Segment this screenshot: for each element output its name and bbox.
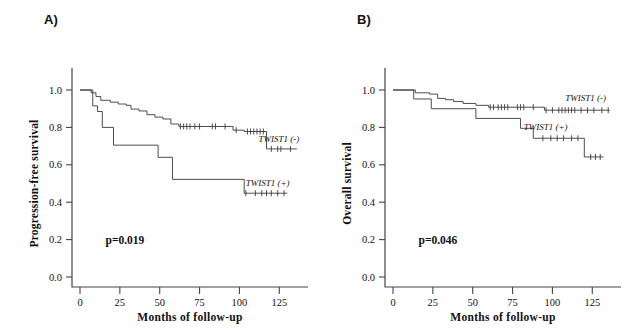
x-tick-label: 75 bbox=[194, 297, 205, 308]
x-axis-title: Months of follow-up bbox=[450, 311, 555, 324]
y-tick-label: 0.0 bbox=[362, 272, 375, 283]
panel-b: B) 0.00.20.40.60.81.00255075100125Months… bbox=[313, 0, 626, 333]
x-tick-label: 50 bbox=[467, 297, 478, 308]
y-tick-label: 1.0 bbox=[49, 85, 62, 96]
y-tick-label: 0.2 bbox=[49, 234, 62, 245]
x-axis-title: Months of follow-up bbox=[137, 311, 242, 324]
x-tick-label: 0 bbox=[390, 297, 395, 308]
y-tick-label: 0.4 bbox=[362, 197, 376, 208]
curve-label-positive: TWIST1 (+) bbox=[524, 122, 568, 132]
p-value-annotation: p=0.046 bbox=[419, 234, 458, 247]
panel-b-plot: 0.00.20.40.60.81.00255075100125Months of… bbox=[313, 0, 626, 333]
curve-label-negative: TWIST1 (-) bbox=[259, 134, 300, 144]
panel-a: A) 0.00.20.40.60.81.00255075100125Months… bbox=[0, 0, 313, 333]
y-tick-label: 1.0 bbox=[362, 85, 375, 96]
x-tick-label: 25 bbox=[115, 297, 126, 308]
y-axis-title: Overall survival bbox=[341, 142, 353, 225]
y-tick-label: 0.6 bbox=[49, 159, 62, 170]
y-tick-label: 0.2 bbox=[362, 234, 375, 245]
panel-a-plot: 0.00.20.40.60.81.00255075100125Months of… bbox=[0, 0, 313, 333]
curve-label-positive: TWIST1 (+) bbox=[246, 178, 290, 188]
y-tick-label: 0.6 bbox=[362, 159, 375, 170]
x-tick-label: 25 bbox=[428, 297, 439, 308]
p-value-annotation: p=0.019 bbox=[106, 234, 145, 247]
x-tick-label: 125 bbox=[271, 297, 287, 308]
curve-label-negative: TWIST1 (-) bbox=[565, 93, 606, 103]
x-tick-label: 0 bbox=[77, 297, 82, 308]
x-tick-label: 75 bbox=[507, 297, 517, 308]
y-tick-label: 0.8 bbox=[49, 122, 62, 133]
y-tick-label: 0.0 bbox=[49, 272, 62, 283]
x-tick-label: 125 bbox=[584, 297, 600, 308]
y-axis-title: Progression-free survival bbox=[28, 120, 41, 248]
kaplan-meier-figure: A) 0.00.20.40.60.81.00255075100125Months… bbox=[0, 0, 626, 333]
x-tick-label: 100 bbox=[232, 297, 248, 308]
x-tick-label: 100 bbox=[545, 297, 561, 308]
y-tick-label: 0.4 bbox=[49, 197, 63, 208]
x-tick-label: 50 bbox=[154, 297, 165, 308]
y-tick-label: 0.8 bbox=[362, 122, 375, 133]
